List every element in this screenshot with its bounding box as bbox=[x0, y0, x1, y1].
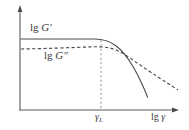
storage-modulus-label-symbol: G′ bbox=[41, 21, 51, 33]
storage-modulus-label-prefix: lg bbox=[30, 21, 41, 33]
x-axis-arrow-icon bbox=[172, 108, 179, 113]
loss-modulus-label-prefix: lg bbox=[44, 49, 55, 61]
loss-modulus-label: lg G″ bbox=[44, 50, 68, 61]
chart-figure: lg G′ lg G″ γL lg γ bbox=[0, 0, 189, 130]
loss-modulus-label-symbol: G″ bbox=[55, 49, 68, 61]
x-axis-label-symbol: γ bbox=[161, 111, 165, 122]
storage-modulus-label: lg G′ bbox=[30, 22, 52, 33]
x-axis-label: lg γ bbox=[151, 112, 165, 122]
storage-modulus-curve bbox=[21, 39, 148, 97]
x-axis-label-prefix: lg bbox=[151, 111, 161, 122]
critical-strain-tick-label: γL bbox=[95, 112, 103, 124]
y-axis-arrow-icon bbox=[18, 5, 23, 12]
critical-strain-subscript: L bbox=[99, 116, 103, 123]
